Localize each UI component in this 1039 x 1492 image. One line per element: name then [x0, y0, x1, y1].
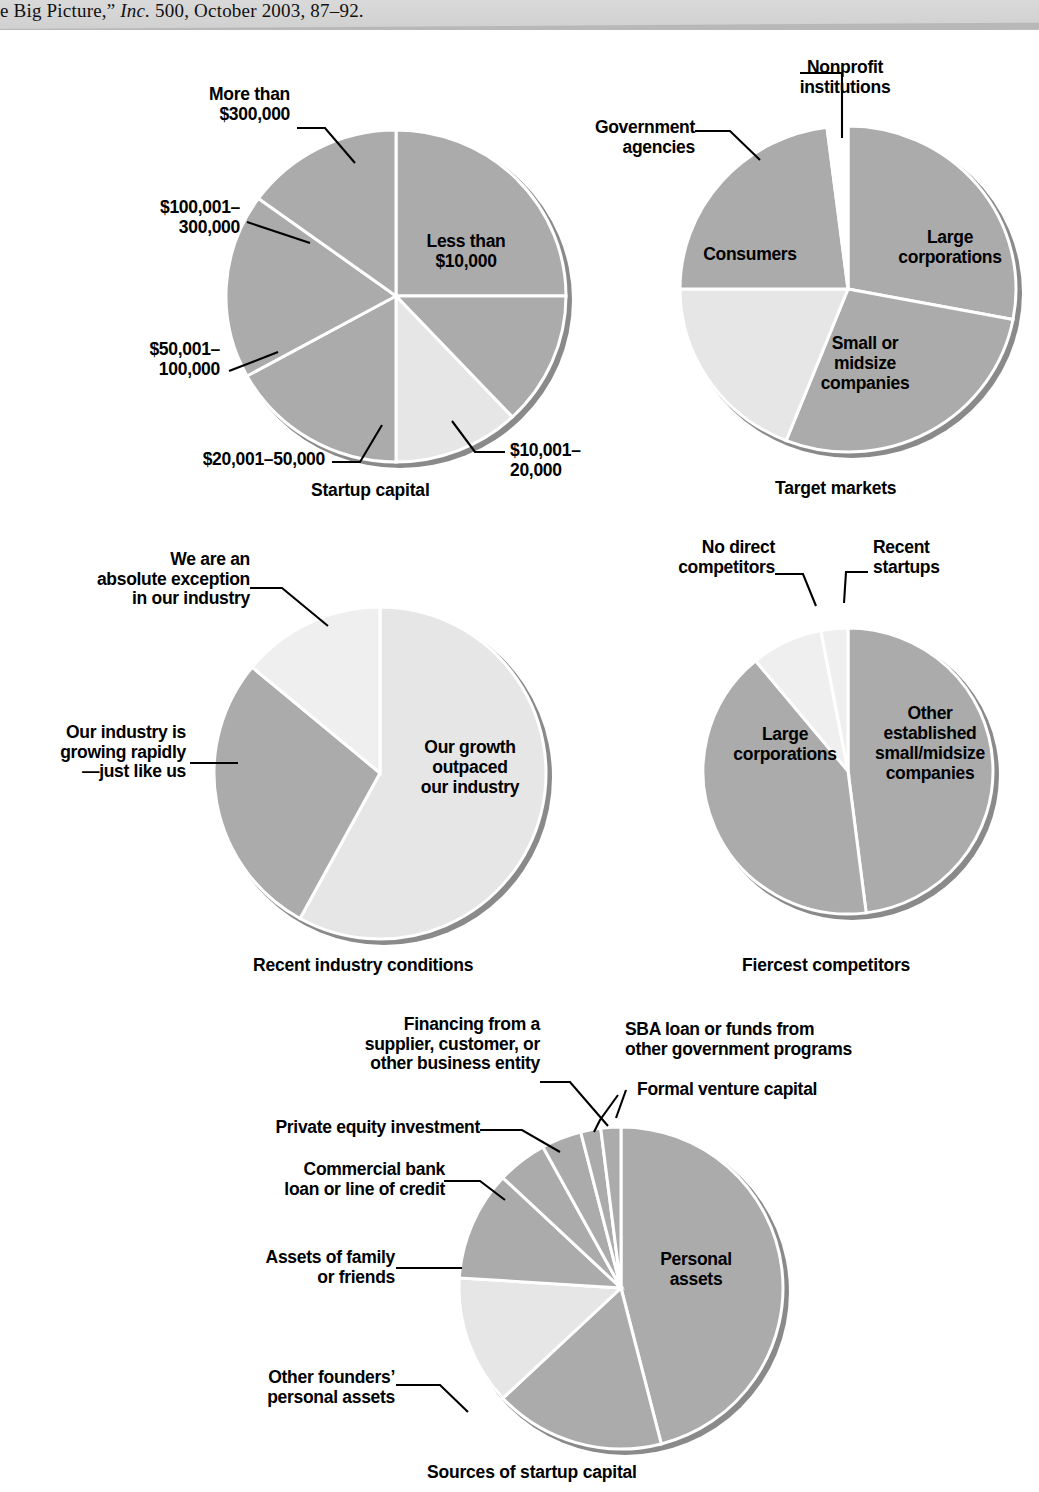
caption-target-markets: Target markets [775, 478, 896, 499]
caption-recent-industry-conditions: Recent industry conditions [253, 955, 473, 976]
slice-label-100001-300000: $100,001– 300,000 [90, 198, 240, 237]
slice-label-large-corporations-fc: Large corporations [715, 725, 855, 765]
pie-slices-startup-capital [226, 130, 566, 462]
caption-sources-of-startup-capital: Sources of startup capital [427, 1462, 637, 1483]
slice-label-assets-of-family-or-friends: Assets of family or friends [240, 1248, 395, 1287]
slice-label-personal-assets: Personal assets [636, 1250, 756, 1290]
slice-label-growth-outpaced-industry: Our growth outpaced our industry [390, 738, 550, 798]
pie-slices-target-markets [680, 126, 1016, 452]
slice-label-20001-50000: $20,001–50,000 [110, 450, 325, 470]
slice-label-nonprofit-institutions: Nonprofit institutions [770, 58, 920, 97]
chart-target-markets: Nonprofit institutions Government agenci… [590, 0, 1039, 520]
slice-label-other-established-companies: Other established small/midsize companie… [855, 704, 1005, 784]
slice-label-industry-growing-rapidly: Our industry is growing rapidly —just li… [0, 723, 186, 782]
slice-label-recent-startups: Recent startups [873, 538, 1003, 577]
slice-label-government-agencies: Government agencies [515, 118, 695, 157]
slice-label-financing-from-supplier: Financing from a supplier, customer, or … [270, 1015, 540, 1074]
slice-label-small-or-midsize-companies: Small or midsize companies [790, 334, 940, 394]
slice-label-50001-100000: $50,001– 100,000 [90, 340, 220, 379]
chart-fiercest-competitors: No direct competitors Recent startups La… [620, 530, 1039, 990]
slice-label-commercial-bank-loan: Commercial bank loan or line of credit [220, 1160, 445, 1199]
pie-slice [848, 126, 1016, 320]
slice-label-consumers: Consumers [685, 245, 815, 265]
caption-fiercest-competitors: Fiercest competitors [742, 955, 910, 976]
slice-label-absolute-exception: We are an absolute exception in our indu… [25, 550, 250, 609]
slice-label-no-direct-competitors: No direct competitors [605, 538, 775, 577]
chart-recent-industry-conditions: We are an absolute exception in our indu… [0, 530, 600, 990]
slice-label-other-founders-personal-assets: Other founders’ personal assets [240, 1368, 395, 1407]
slice-label-less-than-10000: Less than $10,000 [396, 232, 536, 272]
slice-label-more-than-300000: More than $300,000 [120, 85, 290, 124]
caption-startup-capital: Startup capital [311, 480, 430, 501]
slice-label-private-equity-investment: Private equity investment [205, 1118, 480, 1138]
chart-sources-of-startup-capital: Financing from a supplier, customer, or … [0, 1000, 1039, 1492]
chart-startup-capital: Less than $10,000 More than $300,000 $10… [0, 0, 600, 520]
slice-label-large-corporations: Large corporations [880, 228, 1020, 268]
slice-label-sba-loan: SBA loan or funds from other government … [625, 1020, 915, 1059]
pie-sources-of-startup-capital [0, 1000, 1039, 1492]
slice-label-formal-venture-capital: Formal venture capital [637, 1080, 877, 1100]
